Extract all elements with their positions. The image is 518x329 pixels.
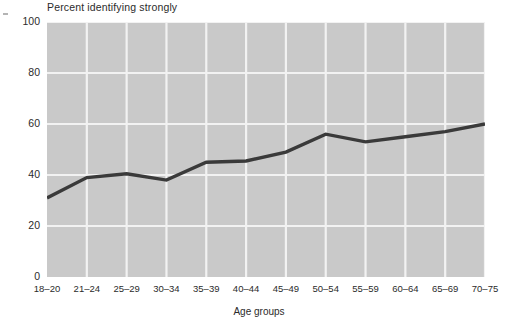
x-tick-label: 25–29 [107, 283, 147, 294]
line-chart: Percent identifying strongly 02040608010… [0, 0, 518, 329]
y-tick-label: 100 [0, 15, 40, 27]
y-tick-label: 60 [0, 117, 40, 129]
x-tick-label: 40–44 [226, 283, 266, 294]
x-tick-label: 45–49 [266, 283, 306, 294]
plot-area [47, 22, 485, 277]
x-axis-title: Age groups [0, 306, 518, 317]
x-tick-label: 18–20 [27, 283, 67, 294]
x-tick-label: 50–54 [306, 283, 346, 294]
x-tick-label: 30–34 [146, 283, 186, 294]
x-tick-label: 55–59 [346, 283, 386, 294]
data-series-line [47, 22, 485, 277]
x-tick-label: 21–24 [67, 283, 107, 294]
x-tick-label: 70–75 [465, 283, 505, 294]
y-tick-label: 0 [0, 270, 40, 282]
y-tick-label: 40 [0, 168, 40, 180]
y-tick-label: 20 [0, 219, 40, 231]
x-tick-label: 60–64 [385, 283, 425, 294]
x-tick-label: 35–39 [186, 283, 226, 294]
y-tick-label: 80 [0, 66, 40, 78]
x-tick-label: 65–69 [425, 283, 465, 294]
y-axis-title: Percent identifying strongly [47, 1, 177, 13]
